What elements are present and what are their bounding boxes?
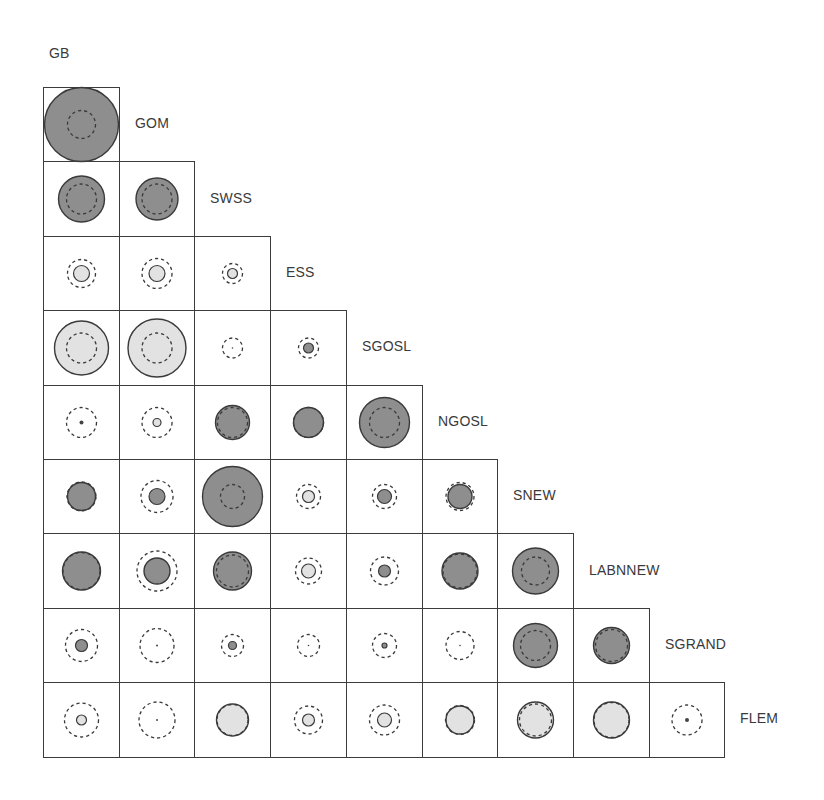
matrix-cell-snew-gom [119, 459, 195, 534]
observed-circle [379, 565, 391, 577]
bubble-icon [271, 683, 348, 759]
observed-circle [217, 704, 249, 736]
bubble-icon [44, 311, 121, 387]
bubble-icon [44, 386, 121, 461]
matrix-cell-sgosl-ess [270, 310, 347, 386]
bubble-icon [120, 237, 196, 312]
observed-circle [80, 421, 84, 425]
observed-circle [74, 266, 90, 282]
bubble-icon [423, 683, 499, 759]
observed-circle [156, 645, 158, 647]
observed-circle [303, 714, 315, 726]
bubble-icon [44, 609, 121, 684]
bubble-icon [347, 386, 424, 461]
matrix-cell-flem-ess [270, 682, 347, 758]
bubble-icon [44, 237, 121, 312]
matrix-cell-sgrand-sgosl [346, 608, 423, 683]
matrix-cell-labnnew-gom [119, 533, 195, 609]
column-header-gb: GB [49, 45, 70, 61]
matrix-cell-labnnew-snew [497, 533, 574, 609]
matrix-cell-ngosl-sgosl [346, 385, 423, 460]
bubble-icon [423, 609, 499, 684]
matrix-cell-flem-gom [119, 682, 195, 758]
observed-circle [228, 269, 238, 279]
matrix-cell-flem-ngosl [422, 682, 498, 758]
matrix-cell-swss-gom [119, 161, 195, 237]
bubble-icon [195, 311, 272, 387]
correlation-matrix-diagram: GB GOMSWSSESSSGOSLNGOSLSNEWLABNNEWSGRAND… [0, 0, 824, 800]
bubble-icon [120, 386, 196, 461]
matrix-cell-sgrand-ess [270, 608, 347, 683]
matrix-cell-snew-sgosl [346, 459, 423, 534]
row-label-snew: SNEW [513, 487, 556, 503]
matrix-cell-labnnew-swss [194, 533, 271, 609]
matrix-cell-sgrand-snew [497, 608, 574, 683]
bubble-icon [44, 534, 121, 610]
matrix-cell-ngosl-gb [43, 385, 120, 460]
bubble-icon [271, 609, 348, 684]
bubble-icon [195, 237, 272, 312]
bubble-icon [120, 683, 196, 759]
bubble-icon [44, 162, 121, 238]
matrix-cell-sgrand-swss [194, 608, 271, 683]
observed-circle [513, 548, 559, 594]
row-label-sgosl: SGOSL [362, 338, 411, 354]
observed-circle [128, 319, 186, 377]
matrix-cell-flem-sgrand [649, 682, 725, 758]
matrix-cell-snew-gb [43, 459, 120, 534]
observed-circle [149, 266, 165, 282]
bubble-icon [120, 311, 196, 387]
matrix-cell-sgosl-gb [43, 310, 120, 386]
observed-circle [685, 718, 689, 722]
bubble-icon [44, 88, 121, 163]
bubble-icon [271, 386, 348, 461]
observed-circle [77, 715, 87, 725]
row-label-gom: GOM [135, 115, 169, 131]
bubble-icon [195, 609, 272, 684]
observed-circle [76, 640, 88, 652]
observed-circle [308, 645, 310, 647]
matrix-cell-labnnew-ess [270, 533, 347, 609]
matrix-cell-flem-gb [43, 682, 120, 758]
observed-circle [378, 713, 392, 727]
bubble-icon [423, 534, 499, 610]
observed-circle [382, 643, 387, 648]
observed-circle [153, 419, 161, 427]
bubble-icon [650, 683, 726, 759]
matrix-cell-ngosl-ess [270, 385, 347, 460]
bubble-icon [423, 460, 499, 535]
bubble-icon [347, 683, 424, 759]
matrix-cell-labnnew-gb [43, 533, 120, 609]
row-label-sgrand: SGRAND [665, 636, 726, 652]
matrix-cell-ngosl-swss [194, 385, 271, 460]
matrix-cell-snew-swss [194, 459, 271, 534]
bubble-icon [195, 460, 272, 535]
bubble-icon [44, 683, 121, 759]
observed-circle [45, 88, 119, 162]
bubble-icon [120, 460, 196, 535]
bubble-icon [195, 683, 272, 759]
matrix-cell-ess-swss [194, 236, 271, 311]
observed-circle [229, 642, 237, 650]
bubble-icon [498, 534, 575, 610]
matrix-cell-ess-gb [43, 236, 120, 311]
matrix-cell-snew-ess [270, 459, 347, 534]
matrix-cell-sgrand-gb [43, 608, 120, 683]
matrix-cell-snew-ngosl [422, 459, 498, 534]
matrix-cell-sgrand-labnnew [573, 608, 650, 683]
matrix-cell-flem-labnnew [573, 682, 650, 758]
observed-circle [156, 719, 158, 721]
observed-circle [203, 467, 263, 527]
observed-circle [442, 553, 478, 589]
bubble-icon [498, 683, 575, 759]
observed-circle [303, 491, 315, 503]
bubble-icon [498, 609, 575, 684]
observed-circle [594, 628, 630, 664]
row-label-ngosl: NGOSL [438, 413, 488, 429]
bubble-icon [120, 609, 196, 684]
bubble-icon [347, 460, 424, 535]
bubble-icon [574, 609, 651, 684]
observed-circle [448, 485, 472, 509]
observed-circle [304, 343, 314, 353]
matrix-cell-swss-gb [43, 161, 120, 237]
